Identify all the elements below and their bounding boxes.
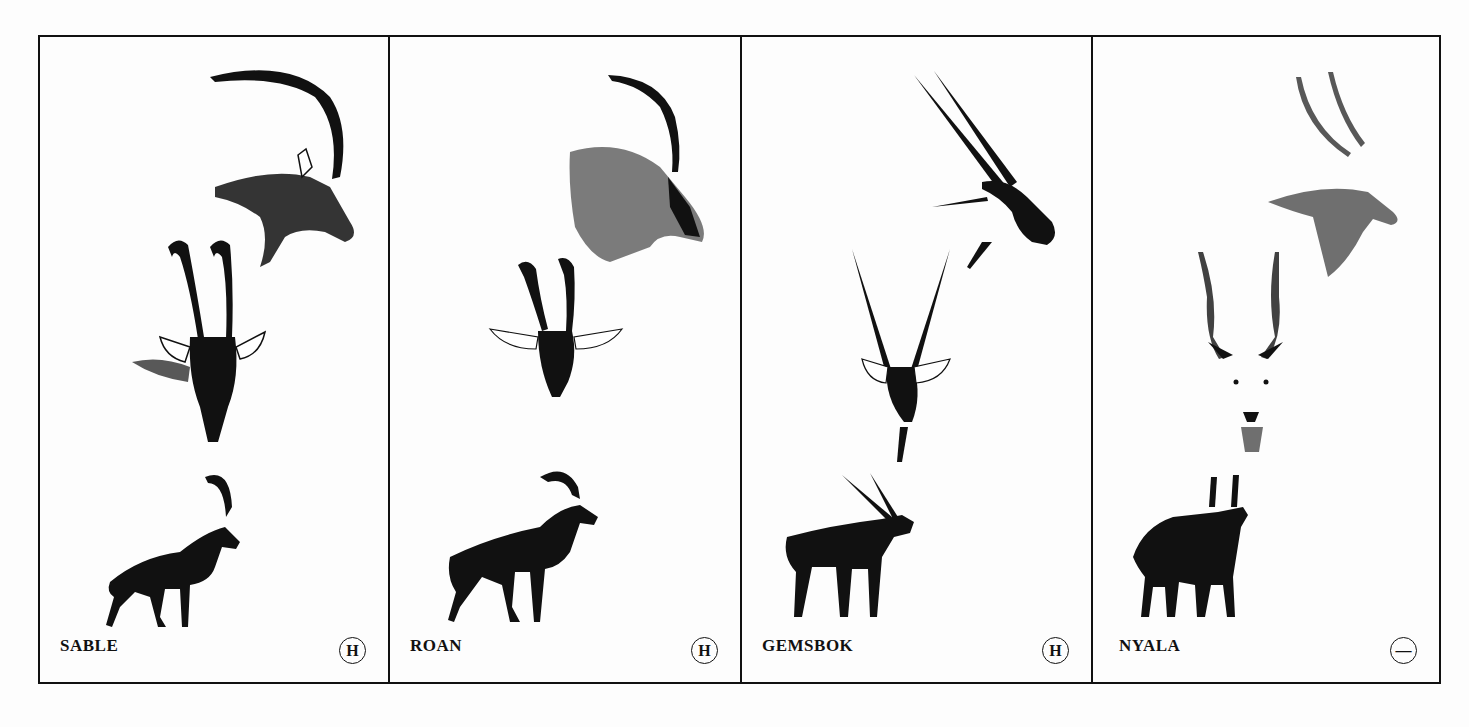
species-name: NYALA (1119, 636, 1180, 656)
nyala-silhouette (1133, 475, 1248, 617)
nyala-front-head (1198, 252, 1283, 452)
circled-minus-icon: — (1390, 637, 1417, 664)
gemsbok-front-head (852, 249, 950, 462)
sable-silhouette (106, 475, 240, 627)
roan-front-head (490, 258, 622, 397)
nyala-profile-head (1268, 72, 1398, 277)
gemsbok-profile-head (914, 71, 1055, 269)
species-name: SABLE (60, 636, 118, 656)
species-name: GEMSBOK (762, 636, 853, 656)
panel-sable: SABLE H (40, 37, 390, 682)
gemsbok-silhouette (786, 473, 914, 617)
panel-gemsbok: GEMSBOK H (742, 37, 1093, 682)
gemsbok-illustration (742, 37, 1093, 686)
species-name: ROAN (410, 636, 462, 656)
antelope-plate: SABLE H ROAN H (38, 35, 1441, 684)
circled-h-icon: H (339, 637, 366, 664)
sable-illustration (40, 37, 390, 686)
panel-roan: ROAN H (390, 37, 742, 682)
circled-h-icon: H (691, 637, 718, 664)
sable-profile-head (210, 70, 354, 267)
nyala-illustration (1093, 37, 1441, 686)
panel-nyala: NYALA — (1093, 37, 1439, 682)
roan-profile-head (570, 75, 704, 262)
sable-front-head (132, 240, 265, 442)
roan-illustration (390, 37, 742, 686)
circled-h-icon: H (1042, 637, 1069, 664)
roan-silhouette (448, 471, 598, 622)
